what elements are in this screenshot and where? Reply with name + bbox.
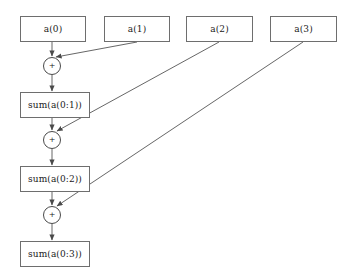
plus-operator-2[interactable]: + bbox=[43, 131, 61, 149]
input-box-a0[interactable]: a(0) bbox=[20, 16, 86, 42]
plus-operator-1[interactable]: + bbox=[43, 57, 61, 75]
accumulator-box-sum02-label: sum(a(0:2)) bbox=[28, 174, 82, 184]
edge-a1-to-plus1 bbox=[56, 42, 137, 57]
plus-icon: + bbox=[49, 211, 56, 219]
accumulator-box-sum03[interactable]: sum(a(0:3)) bbox=[20, 241, 90, 267]
plus-icon: + bbox=[49, 62, 56, 70]
input-box-a1[interactable]: a(1) bbox=[104, 16, 170, 42]
plus-icon: + bbox=[49, 136, 56, 144]
input-box-a3-label: a(3) bbox=[294, 24, 313, 34]
input-box-a2[interactable]: a(2) bbox=[186, 16, 253, 42]
input-box-a2-label: a(2) bbox=[210, 24, 229, 34]
plus-operator-3[interactable]: + bbox=[43, 206, 61, 224]
dataflow-diagram: a(0) a(1) a(2) a(3) + + + sum(a(0:1)) su… bbox=[0, 0, 347, 278]
accumulator-box-sum01[interactable]: sum(a(0:1)) bbox=[20, 92, 90, 118]
input-box-a3[interactable]: a(3) bbox=[270, 16, 337, 42]
accumulator-box-sum01-label: sum(a(0:1)) bbox=[28, 100, 82, 110]
accumulator-box-sum02[interactable]: sum(a(0:2)) bbox=[20, 166, 90, 192]
edge-a3-to-plus3 bbox=[57, 42, 303, 206]
edge-group bbox=[52, 42, 303, 240]
input-box-a1-label: a(1) bbox=[128, 24, 147, 34]
input-box-a0-label: a(0) bbox=[44, 24, 63, 34]
accumulator-box-sum03-label: sum(a(0:3)) bbox=[28, 249, 82, 259]
